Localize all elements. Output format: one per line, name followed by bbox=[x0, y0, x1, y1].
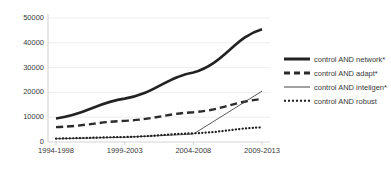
legend-item[interactable]: control AND adapt* bbox=[284, 66, 391, 80]
legend-item-label: control AND inteligen* bbox=[314, 83, 387, 92]
legend-item[interactable]: control AND inteligen* bbox=[284, 80, 391, 94]
x-tick-label: 1999-2003 bbox=[107, 146, 143, 155]
y-tick-label: 0 bbox=[0, 138, 44, 146]
x-axis: 1994-19981999-20032004-20082009-2013 bbox=[48, 146, 270, 160]
series-line-1 bbox=[56, 99, 262, 127]
plot-svg bbox=[48, 18, 270, 142]
solid-thin-line-icon bbox=[284, 82, 310, 92]
dashed-thick-line-icon bbox=[284, 68, 310, 78]
x-tick-label: 2009-2013 bbox=[244, 146, 280, 155]
y-tick-label: 20000 bbox=[0, 88, 44, 96]
line-chart-figure: 50000400003000020000100000 1994-19981999… bbox=[0, 0, 391, 172]
series-line-2 bbox=[56, 91, 262, 139]
legend-item[interactable]: control AND robust bbox=[284, 94, 391, 108]
y-tick-label: 40000 bbox=[0, 39, 44, 47]
y-tick-label: 10000 bbox=[0, 113, 44, 121]
chart-legend: control AND network*control AND adapt*co… bbox=[284, 52, 391, 114]
x-tick-label: 1994-1998 bbox=[38, 146, 74, 155]
solid-thick-line-icon bbox=[284, 54, 310, 64]
y-tick-label: 50000 bbox=[0, 14, 44, 22]
series-line-3 bbox=[56, 127, 262, 138]
y-tick-label: 30000 bbox=[0, 64, 44, 72]
legend-item-label: control AND adapt* bbox=[314, 69, 378, 78]
dotted-line-icon bbox=[284, 96, 310, 106]
legend-item-label: control AND robust bbox=[314, 97, 377, 106]
legend-item[interactable]: control AND network* bbox=[284, 52, 391, 66]
plot-area bbox=[48, 18, 270, 142]
x-tick-label: 2004-2008 bbox=[175, 146, 211, 155]
legend-item-label: control AND network* bbox=[314, 55, 385, 64]
